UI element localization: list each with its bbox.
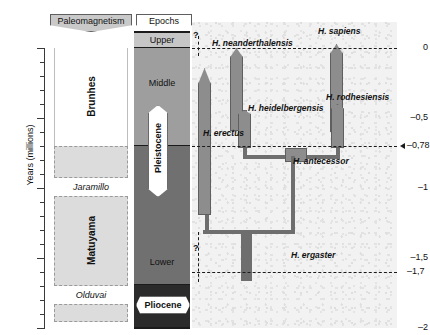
- y-axis-tick-minor: [40, 146, 45, 147]
- paleomagnetism-band: [54, 146, 128, 178]
- y-axis-tick-minor: [40, 174, 45, 175]
- y-axis-tick-minor: [40, 202, 45, 203]
- y-axis-tick-minor: [40, 314, 45, 315]
- taxon-label: H. erectus: [203, 128, 244, 138]
- epoch-divider: [134, 31, 190, 33]
- boundary-line-label: –1,7: [407, 266, 425, 276]
- y-axis-tick-minor: [40, 230, 45, 231]
- y-axis-tick-minor: [40, 272, 45, 273]
- uncertainty-marker: ?: [193, 30, 199, 40]
- uncertainty-line: [198, 232, 199, 282]
- epochs-header: Epochs: [136, 14, 192, 32]
- y-axis-tick-minor: [40, 216, 45, 217]
- epoch-subdivision-label: Middle: [149, 78, 176, 88]
- y-axis-tick-minor: [40, 286, 45, 287]
- taxon-label: H. antecessor: [293, 156, 349, 166]
- epoch-subdivision-label: Lower: [150, 257, 175, 267]
- pliocene-label: Pliocene: [144, 300, 181, 310]
- y-axis-tick-major: [37, 48, 45, 49]
- paleomagnetism-header: Paleomagnetism: [50, 14, 132, 32]
- y-axis-tick-minor: [40, 300, 45, 301]
- y-axis-tick-label: –2: [396, 323, 428, 332]
- y-axis-tick-label: –1: [396, 183, 428, 192]
- y-axis-tick-minor: [40, 244, 45, 245]
- y-axis-tick-minor: [40, 76, 45, 77]
- taxon-label: H. rodhesiensis: [326, 92, 389, 102]
- y-axis-tick-major: [37, 258, 45, 259]
- y-axis-tick-label: –0,5: [396, 113, 428, 122]
- y-axis-tick-minor: [40, 62, 45, 63]
- y-axis-tick-minor: [40, 160, 45, 161]
- boundary-arrow-icon: [400, 143, 405, 149]
- epoch-subdivision: Upper: [134, 32, 190, 48]
- pleistocene-label: Pleistocene: [153, 98, 163, 198]
- y-axis-tick-major: [37, 188, 45, 189]
- lineage-bar: [331, 104, 344, 148]
- y-axis-tick-minor: [40, 90, 45, 91]
- epoch-subdivision-label: Upper: [150, 35, 175, 45]
- taxon-label: H. ergaster: [291, 250, 335, 260]
- taxon-label: H. heidelbergensis: [248, 103, 324, 113]
- epoch-divider: [134, 327, 190, 329]
- paleomagnetism-band: [54, 304, 128, 322]
- y-axis-tick-minor: [40, 132, 45, 133]
- lineage-bar: [198, 68, 211, 215]
- y-axis-tick-minor: [40, 104, 45, 105]
- paleomagnetism-header-label: Paleomagnetism: [57, 16, 124, 26]
- pliocene-badge: Pliocene: [136, 296, 190, 314]
- phylogeny-branch: [291, 156, 295, 234]
- epochs-header-label: Epochs: [149, 16, 179, 26]
- paleomagnetism-band-label: Olduvai: [54, 290, 128, 300]
- y-axis-title: Years (millions): [25, 95, 35, 215]
- y-axis-tick-label: 0: [396, 43, 428, 52]
- boundary-line: [192, 272, 397, 273]
- paleomagnetism-band-label: Brunhes: [86, 37, 97, 157]
- paleomagnetism-band-label: Matuyama: [86, 181, 97, 301]
- y-axis-tick-major: [37, 328, 45, 329]
- boundary-line: [192, 146, 397, 147]
- taxon-label: H. neanderthalensis: [212, 38, 293, 48]
- boundary-line: [192, 48, 397, 49]
- taxon-label: H. sapiens: [318, 26, 361, 36]
- y-axis-tick-major: [37, 118, 45, 119]
- y-axis-tick-label: –1,5: [396, 253, 428, 262]
- boundary-line-label: –0,78: [407, 140, 430, 150]
- phylogeny-branch: [241, 230, 252, 281]
- uncertainty-marker: ?: [193, 243, 199, 253]
